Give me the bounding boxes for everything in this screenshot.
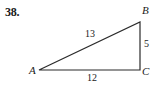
side-label-vertical-leg: 5 bbox=[144, 38, 149, 49]
vertex-label-b: B bbox=[142, 4, 149, 16]
vertex-label-a: A bbox=[29, 64, 36, 76]
figure-screenshot: 38. A B C 13 5 12 bbox=[0, 0, 157, 88]
vertex-label-c: C bbox=[142, 65, 149, 77]
side-label-base: 12 bbox=[87, 72, 97, 83]
right-triangle-diagram bbox=[0, 0, 157, 88]
side-label-hypotenuse: 13 bbox=[85, 28, 95, 39]
